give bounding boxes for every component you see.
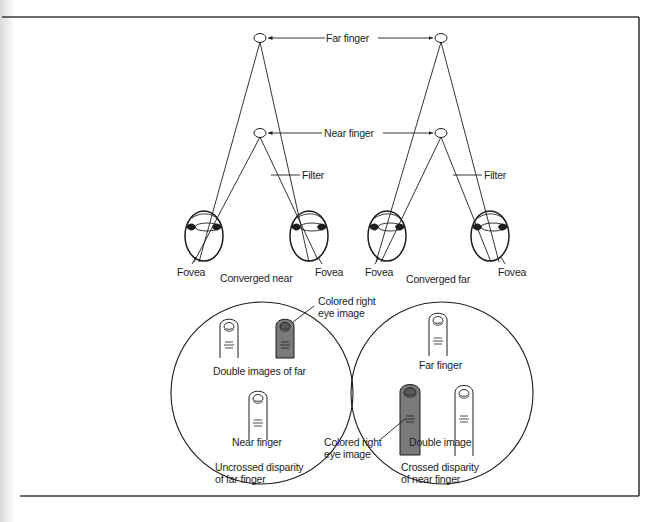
- far-finger-left-marker: [254, 34, 266, 43]
- filter-label-right: Filter: [484, 169, 506, 181]
- uncrossed-disparity-caption-2: of far finger: [215, 473, 266, 485]
- far-finger-label: Far finger: [326, 32, 369, 44]
- eye-icon: [471, 211, 509, 261]
- fovea-label: Fovea: [177, 266, 205, 278]
- finger-targets: [254, 34, 447, 138]
- fovea-label: Fovea: [365, 266, 393, 278]
- eye-icon: [368, 211, 406, 261]
- near-finger-view-label: Near finger: [232, 436, 282, 448]
- converged-far-label: Converged far: [406, 273, 470, 285]
- colored-right-eye-label-right: Colored right: [324, 436, 382, 448]
- colored-finger-icon: [276, 319, 294, 358]
- colored-right-eye-label-left-2: eye image: [318, 307, 365, 319]
- eye-icon: [290, 211, 328, 261]
- figure-stage: Far finger Near finger Filter Filter Fov…: [0, 0, 672, 522]
- filter-label-left: Filter: [302, 169, 324, 181]
- finger-icon: [220, 319, 238, 358]
- near-finger-right-marker: [435, 129, 447, 138]
- far-finger-right-marker: [435, 34, 447, 43]
- eye-icon: [185, 211, 223, 261]
- label-arrows: [268, 38, 482, 175]
- finger-icon: [249, 391, 267, 440]
- fovea-pointers: [192, 257, 505, 264]
- colored-right-eye-label-right-2: eye image: [324, 448, 371, 460]
- fovea-label: Fovea: [315, 266, 343, 278]
- converged-near-label: Converged near: [220, 272, 293, 284]
- crossed-disparity-caption: Crossed disparity: [401, 461, 479, 473]
- double-image-label: Double image: [409, 436, 471, 448]
- near-finger-label: Near finger: [324, 127, 374, 139]
- far-finger-view-label: Far finger: [419, 359, 462, 371]
- finger-icon: [429, 313, 447, 356]
- uncrossed-disparity-caption: Uncrossed disparity: [215, 461, 303, 473]
- double-images-label: Double images of far: [213, 365, 306, 377]
- fovea-label: Fovea: [498, 266, 526, 278]
- colored-right-eye-label-left: Colored right: [318, 295, 376, 307]
- near-finger-left-marker: [254, 129, 266, 138]
- crossed-disparity-caption-2: of near finger: [401, 473, 460, 485]
